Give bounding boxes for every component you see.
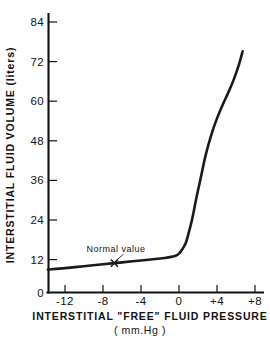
x-axis-tick-labels: -12 -8 -4 0 +4 +8 xyxy=(56,295,262,307)
y-tick-label-36: 36 xyxy=(30,174,44,186)
x-axis-ticks xyxy=(65,285,255,292)
axis-spines xyxy=(48,14,264,293)
y-tick-label-48: 48 xyxy=(30,135,44,147)
chart-figure: 84 72 60 48 36 24 12 0 -12 -8 -4 0 +4 +8… xyxy=(0,0,270,343)
y-axis-tick-labels: 84 72 60 48 36 24 12 0 xyxy=(30,16,44,299)
y-tick-label-24: 24 xyxy=(30,214,44,226)
x-tick-label-0: 0 xyxy=(176,295,183,307)
y-tick-label-84: 84 xyxy=(30,16,44,28)
x-axis-units: ( mm.Hg ) xyxy=(114,324,166,336)
chart-canvas: 84 72 60 48 36 24 12 0 -12 -8 -4 0 +4 +8… xyxy=(0,0,270,343)
y-axis-title: INTERSTITIAL FLUID VOLUME (liters) xyxy=(4,47,16,264)
y-tick-label-12: 12 xyxy=(30,254,44,266)
y-tick-label-0: 0 xyxy=(37,287,44,299)
normal-value-label: Normal value xyxy=(86,244,145,254)
x-tick-label--12: -12 xyxy=(56,295,74,307)
y-tick-label-60: 60 xyxy=(30,95,44,107)
y-tick-label-72: 72 xyxy=(30,56,44,68)
data-curve-interstitial-fluid-volume xyxy=(48,51,243,269)
y-axis-ticks xyxy=(49,22,57,260)
x-axis-title: INTERSTITIAL "FREE" FLUID PRESSURE xyxy=(32,310,267,322)
x-tick-label-+8: +8 xyxy=(248,295,262,307)
x-tick-label-+4: +4 xyxy=(210,295,224,307)
x-tick-label--8: -8 xyxy=(97,295,108,307)
x-tick-label--4: -4 xyxy=(135,295,146,307)
